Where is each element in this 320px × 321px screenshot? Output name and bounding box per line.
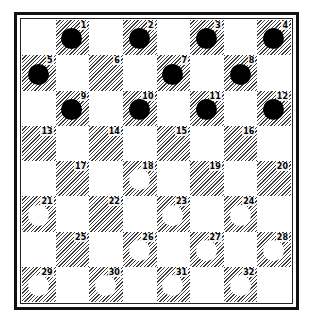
black-piece-icon <box>129 99 150 120</box>
square-number: 3 <box>214 21 222 30</box>
white-piece-icon <box>162 205 183 226</box>
dark-square: 4 <box>257 20 291 55</box>
square-number: 22 <box>108 197 121 206</box>
dark-square: 8 <box>224 55 258 90</box>
light-square <box>56 55 90 90</box>
square-number: 14 <box>108 127 121 136</box>
black-piece-icon <box>162 64 183 85</box>
light-square <box>157 161 191 196</box>
white-piece-icon <box>263 240 284 261</box>
square-number: 20 <box>276 162 289 171</box>
light-square <box>22 232 56 267</box>
white-piece-icon <box>196 240 217 261</box>
square-number: 13 <box>40 127 53 136</box>
dark-square: 15 <box>157 126 191 161</box>
light-square <box>157 232 191 267</box>
dark-square: 13 <box>22 126 56 161</box>
square-number: 7 <box>181 56 189 65</box>
white-piece-icon <box>28 275 49 296</box>
light-square <box>89 91 123 126</box>
white-piece-icon <box>129 240 150 261</box>
square-number: 25 <box>74 233 87 242</box>
light-square <box>123 196 157 231</box>
dark-square: 11 <box>190 91 224 126</box>
light-square <box>190 126 224 161</box>
light-square <box>190 55 224 90</box>
light-square <box>224 20 258 55</box>
dark-square: 3 <box>190 20 224 55</box>
light-square <box>22 20 56 55</box>
dark-square: 25 <box>56 232 90 267</box>
light-square <box>190 267 224 302</box>
white-piece-icon <box>230 205 251 226</box>
black-piece-icon <box>263 99 284 120</box>
white-piece-icon <box>95 275 116 296</box>
light-square <box>56 196 90 231</box>
light-square <box>190 196 224 231</box>
white-piece-icon <box>129 169 150 190</box>
dark-square: 20 <box>257 161 291 196</box>
dark-square: 18 <box>123 161 157 196</box>
dark-square: 32 <box>224 267 258 302</box>
dark-square: 27 <box>190 232 224 267</box>
dark-square: 1 <box>56 20 90 55</box>
square-number: 8 <box>248 56 256 65</box>
black-piece-icon <box>196 28 217 49</box>
dark-square: 30 <box>89 267 123 302</box>
dark-square: 10 <box>123 91 157 126</box>
square-number: 19 <box>209 162 222 171</box>
light-square <box>89 161 123 196</box>
light-square <box>123 126 157 161</box>
dark-square: 26 <box>123 232 157 267</box>
light-square <box>123 55 157 90</box>
black-piece-icon <box>129 28 150 49</box>
light-square <box>257 267 291 302</box>
dark-square: 2 <box>123 20 157 55</box>
square-number: 1 <box>80 21 88 30</box>
dark-square: 16 <box>224 126 258 161</box>
black-piece-icon <box>61 99 82 120</box>
dark-square: 21 <box>22 196 56 231</box>
white-piece-icon <box>162 275 183 296</box>
square-number: 16 <box>242 127 255 136</box>
light-square <box>224 91 258 126</box>
black-piece-icon <box>61 28 82 49</box>
dark-square: 9 <box>56 91 90 126</box>
light-square <box>157 20 191 55</box>
square-number: 6 <box>113 56 121 65</box>
square-number: 9 <box>80 92 88 101</box>
dark-square: 23 <box>157 196 191 231</box>
white-piece-icon <box>28 205 49 226</box>
light-square <box>224 161 258 196</box>
light-square <box>89 20 123 55</box>
light-square <box>56 126 90 161</box>
black-piece-icon <box>263 28 284 49</box>
light-square <box>257 196 291 231</box>
dark-square: 29 <box>22 267 56 302</box>
black-piece-icon <box>230 64 251 85</box>
dark-square: 12 <box>257 91 291 126</box>
square-number: 4 <box>281 21 289 30</box>
light-square <box>22 91 56 126</box>
dark-square: 5 <box>22 55 56 90</box>
light-square <box>89 232 123 267</box>
square-number: 23 <box>175 197 188 206</box>
dark-square: 31 <box>157 267 191 302</box>
square-number: 2 <box>147 21 155 30</box>
dark-square: 22 <box>89 196 123 231</box>
light-square <box>224 232 258 267</box>
square-number: 17 <box>74 162 87 171</box>
square-number: 15 <box>175 127 188 136</box>
checkers-board: 1234567891011121314151617181920212223242… <box>22 20 291 302</box>
light-square <box>22 161 56 196</box>
light-square <box>257 126 291 161</box>
dark-square: 6 <box>89 55 123 90</box>
black-piece-icon <box>28 64 49 85</box>
dark-square: 7 <box>157 55 191 90</box>
dark-square: 17 <box>56 161 90 196</box>
black-piece-icon <box>196 99 217 120</box>
dark-square: 24 <box>224 196 258 231</box>
light-square <box>56 267 90 302</box>
dark-square: 14 <box>89 126 123 161</box>
light-square <box>257 55 291 90</box>
